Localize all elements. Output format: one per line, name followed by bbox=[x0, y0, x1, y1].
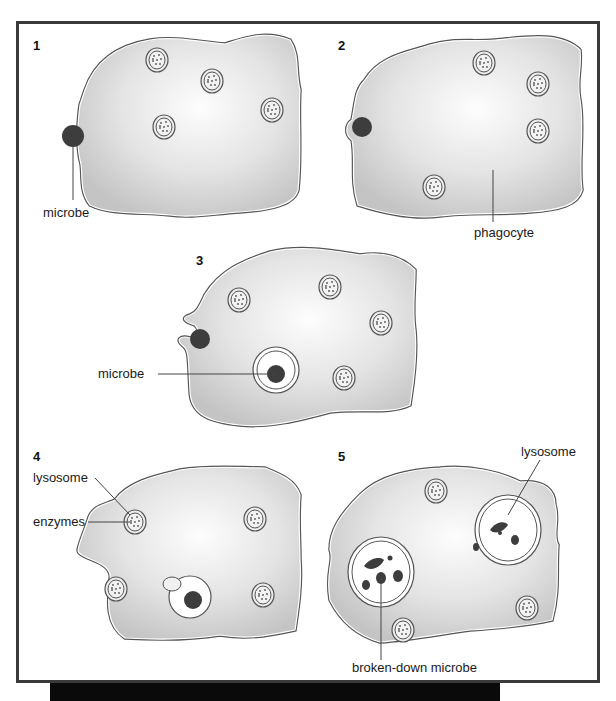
label-lysosome: lysosome bbox=[33, 470, 88, 485]
panel-number: 1 bbox=[33, 38, 40, 53]
phagocytosis-diagram: 1 microbe 2 phagocyte 3 microbe 4 bbox=[0, 0, 616, 701]
panel-3: 3 microbe bbox=[98, 249, 416, 426]
panel-5: 5 lysosome broken-down microbe bbox=[329, 444, 576, 675]
label-microbe: microbe bbox=[43, 205, 89, 220]
microbe-icon bbox=[184, 591, 202, 609]
microbe-icon bbox=[352, 117, 372, 137]
label-lysosome: lysosome bbox=[521, 444, 576, 459]
label-broken-down-microbe: broken-down microbe bbox=[352, 660, 477, 675]
label-enzymes: enzymes bbox=[33, 514, 86, 529]
panel-number: 4 bbox=[33, 449, 41, 464]
microbe-icon bbox=[62, 125, 84, 147]
label-phagocyte: phagocyte bbox=[474, 225, 534, 240]
microbe-icon bbox=[190, 329, 210, 349]
panel-number: 2 bbox=[338, 38, 345, 53]
panel-number: 5 bbox=[338, 449, 345, 464]
label-microbe: microbe bbox=[98, 366, 144, 381]
panel-4: 4 lysosome enzymes bbox=[33, 449, 301, 639]
panel-2: 2 phagocyte bbox=[338, 37, 582, 240]
panel-number: 3 bbox=[196, 253, 203, 268]
panel-1: 1 microbe bbox=[33, 35, 300, 220]
